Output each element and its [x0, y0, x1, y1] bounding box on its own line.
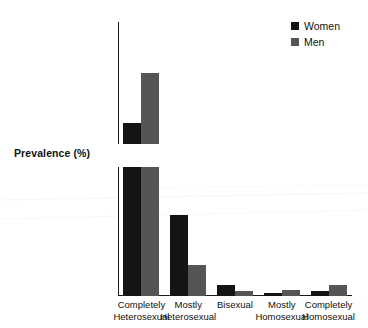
- x-axis-label-line2: Homosexual: [295, 311, 362, 323]
- bar-women-1: [170, 215, 188, 296]
- bar-men-4: [329, 285, 347, 296]
- bar-women-2: [217, 285, 235, 296]
- bar-upper-men-0: [141, 73, 159, 144]
- bar-women-3: [264, 293, 282, 296]
- bar-upper-women-0: [123, 123, 141, 144]
- prevalence-bar-chart: Prevalence (%) Women Men 848688909294969…: [0, 0, 368, 328]
- x-axis-category-labels: CompletelyHeterosexualMostlyHeterosexual…: [118, 299, 352, 327]
- bar-men-1: [188, 265, 206, 296]
- bar-men-3: [282, 290, 300, 296]
- x-axis-label-line1: Completely: [295, 299, 362, 311]
- x-axis-label-4: CompletelyHomosexual: [295, 299, 362, 322]
- bar-men-2: [235, 291, 253, 296]
- y-axis-line-upper: [118, 22, 119, 144]
- bar-women-0: [123, 167, 141, 296]
- y-axis-title: Prevalence (%): [14, 147, 90, 159]
- plot-panel-lower: 0246810121416: [118, 167, 352, 296]
- bar-men-0: [141, 167, 159, 296]
- y-axis-line-lower: [118, 167, 119, 296]
- bar-women-4: [311, 291, 329, 296]
- x-axis-label-line2: Heterosexual: [155, 311, 222, 323]
- plot-panel-upper: 8486889092949698100: [118, 22, 352, 144]
